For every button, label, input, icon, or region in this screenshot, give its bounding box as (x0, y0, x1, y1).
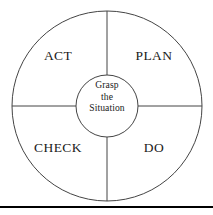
quadrant-label-act: ACT (22, 48, 94, 64)
hub-text-line-3: Situation (72, 102, 142, 114)
pdca-cycle-diagram: ACT PLAN CHECK DO Grasp the Situation (0, 0, 213, 215)
quadrant-label-do: DO (118, 140, 190, 156)
hub-text-line-2: the (72, 91, 142, 103)
hub-text: Grasp the Situation (72, 79, 142, 114)
quadrant-label-plan: PLAN (118, 48, 190, 64)
hub-text-line-1: Grasp (72, 79, 142, 91)
quadrant-label-check: CHECK (18, 140, 98, 156)
bottom-divider-rule (0, 206, 213, 208)
